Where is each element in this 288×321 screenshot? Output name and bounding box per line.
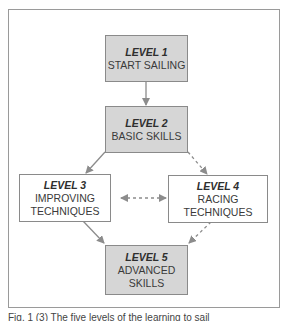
node-level1-title: LEVEL 1 [125,46,167,59]
node-level1: LEVEL 1 START SAILING [105,35,188,82]
edge-level2-level4 [188,152,207,174]
edge-level4-level5 [189,222,211,243]
node-level2: LEVEL 2 BASIC SKILLS [105,106,188,153]
edge-level2-level3 [86,152,105,173]
node-level3-label-line1: IMPROVING [35,192,95,205]
node-level2-title: LEVEL 2 [125,117,167,130]
edge-level3-level5 [83,221,104,243]
node-level3-label-line2: TECHNIQUES [31,205,100,218]
node-level4: LEVEL 4 RACING TECHNIQUES [168,175,268,223]
figure-caption: Fig. 1 (3) The five levels of the learni… [8,311,288,321]
node-level2-label: BASIC SKILLS [111,130,181,143]
node-level5-label-line2: SKILLS [129,277,165,290]
node-level5-title: LEVEL 5 [125,251,167,264]
node-level4-label-line2: TECHNIQUES [184,206,253,219]
node-level4-title: LEVEL 4 [197,180,239,193]
node-level1-label: START SAILING [108,59,186,72]
node-level3-title: LEVEL 3 [44,179,86,192]
node-level4-label-line1: RACING [198,193,239,206]
node-level5-label-line1: ADVANCED [118,264,176,277]
node-level5: LEVEL 5 ADVANCED SKILLS [105,245,188,295]
node-level3: LEVEL 3 IMPROVING TECHNIQUES [19,174,111,222]
